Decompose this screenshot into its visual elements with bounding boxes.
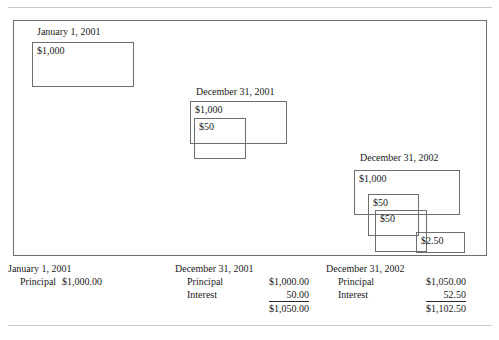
- group-caption-jan-1-2001: January 1, 2001: [37, 26, 101, 38]
- summary-row: Interest 52.50: [338, 288, 466, 301]
- summary-table: January 1, 2001 Principal $1,000.00 Dece…: [0, 262, 499, 324]
- summary-row: Principal $1,000.00: [187, 275, 309, 288]
- summary-column-january-1-2001: January 1, 2001 Principal $1,000.00: [8, 262, 158, 288]
- summary-row-label: Principal: [20, 275, 60, 288]
- summary-row-label: Interest: [187, 288, 217, 301]
- money-box-label: $1,000: [359, 173, 387, 185]
- summary-row-total: $1,102.50: [338, 301, 466, 315]
- summary-row-value: $1,000.00: [269, 275, 309, 288]
- summary-row-value: $1,000.00: [62, 275, 102, 288]
- money-box-label: $50: [380, 213, 395, 225]
- summary-column-title: January 1, 2001: [8, 262, 158, 275]
- summary-row-total: $1,050.00: [187, 301, 309, 315]
- summary-column-december-31-2002: December 31, 2002 Principal $1,050.00 In…: [326, 262, 481, 315]
- summary-row: Principal $1,000.00: [20, 275, 158, 288]
- group-caption-dec-31-2001: December 31, 2001: [196, 86, 275, 98]
- summary-row-value: $1,050.00: [426, 275, 466, 288]
- summary-row-value: 50.00: [287, 288, 310, 301]
- money-box-label: $1,000: [195, 104, 223, 116]
- summary-row-label: Interest: [338, 288, 368, 301]
- money-box-jan-2001-principal: $1,000: [32, 42, 134, 87]
- summary-row-label: Principal: [338, 275, 374, 288]
- money-box-label: $50: [199, 121, 214, 133]
- summary-row-label: Principal: [187, 275, 223, 288]
- money-box-label: $1,000: [37, 45, 65, 57]
- page-rule-top: [8, 7, 492, 8]
- summary-column-title: December 31, 2002: [326, 262, 481, 275]
- page-rule-bottom: [8, 325, 492, 326]
- group-caption-dec-31-2002: December 31, 2002: [360, 152, 439, 164]
- summary-total-value: $1,050.00: [269, 301, 309, 315]
- summary-row: Principal $1,050.00: [338, 275, 466, 288]
- summary-column-title: December 31, 2001: [175, 262, 320, 275]
- summary-column-december-31-2001: December 31, 2001 Principal $1,000.00 In…: [175, 262, 320, 315]
- money-box-dec-2001-interest-1: $50: [194, 118, 246, 159]
- summary-row: Interest 50.00: [187, 288, 309, 301]
- money-box-dec-2002-interest-compound: $2.50: [416, 232, 465, 253]
- summary-total-value: $1,102.50: [426, 301, 466, 315]
- money-box-label: $50: [373, 197, 388, 209]
- money-box-label: $2.50: [421, 235, 444, 247]
- summary-row-value: 52.50: [444, 288, 467, 301]
